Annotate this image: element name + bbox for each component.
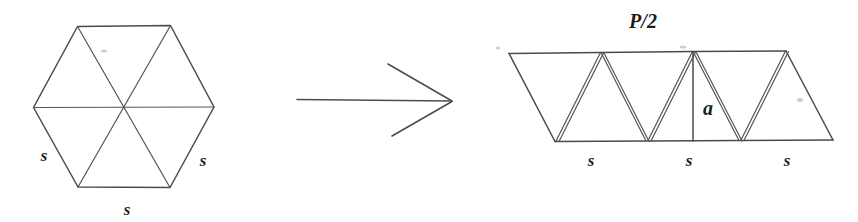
strip-edge-4a bbox=[693, 52, 739, 141]
arrow-barb-upper bbox=[388, 64, 452, 101]
strip-edge-1b bbox=[559, 53, 604, 142]
strip-edge-right-end bbox=[786, 51, 833, 140]
arrow-barb-lower bbox=[392, 102, 452, 137]
strip-edge-2a bbox=[601, 53, 646, 142]
base-label-2: s bbox=[685, 151, 693, 170]
scan-speck-right bbox=[797, 98, 803, 102]
strip-edge-3b bbox=[651, 52, 696, 141]
scan-speck-left bbox=[496, 47, 501, 50]
strip-edge-left-end bbox=[509, 54, 555, 142]
base-label-1: s bbox=[587, 151, 595, 170]
hexagon-diagonal-right bbox=[78, 26, 171, 188]
scan-speck-top bbox=[680, 45, 687, 48]
perimeter-half-label: P/2 bbox=[628, 10, 657, 32]
geometry-figure: s s s bbox=[0, 0, 858, 222]
hexagon-group bbox=[34, 26, 215, 188]
figure-canvas: s s s bbox=[0, 0, 858, 222]
strip-edge-5a bbox=[741, 51, 786, 140]
scan-speck bbox=[101, 49, 107, 52]
apothem-label: a bbox=[703, 97, 713, 119]
side-label-bottom: s bbox=[123, 200, 131, 219]
side-label-left: s bbox=[40, 146, 48, 165]
strip-top-edge bbox=[509, 51, 786, 54]
side-label-right: s bbox=[199, 151, 207, 170]
transformation-arrow bbox=[297, 64, 452, 136]
strip-edge-5b bbox=[744, 52, 789, 141]
strip-bottom-edge bbox=[555, 140, 833, 142]
base-label-3: s bbox=[783, 151, 791, 170]
strip-edge-2b bbox=[604, 53, 649, 142]
arrow-shaft bbox=[297, 100, 451, 102]
triangle-strip-group bbox=[496, 45, 834, 141]
strip-edge-1a bbox=[556, 53, 601, 142]
strip-edge-3a bbox=[648, 52, 693, 141]
